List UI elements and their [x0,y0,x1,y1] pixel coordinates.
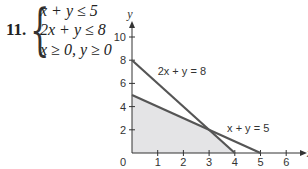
x-tick-label: 1 [155,156,161,168]
line-label-1: 2x + y = 8 [158,65,206,77]
x-axis-label: x [306,146,308,160]
x-tick-label: 5 [257,156,263,168]
feasible-region-graph: 1234562468100xy2x + y = 8x + y = 5 [0,0,308,169]
origin-label: 0 [120,156,126,168]
x-tick-label: 3 [206,156,212,168]
y-tick-label: 2 [120,124,126,136]
y-axis-label: y [126,7,133,21]
x-tick-label: 2 [180,156,186,168]
y-tick-label: 6 [120,77,126,89]
x-tick-label: 4 [232,156,238,168]
line-label-2: x + y = 5 [227,122,269,134]
x-axis-arrow-icon [300,150,307,156]
x-tick-label: 6 [283,156,289,168]
feasible-region [132,95,235,153]
y-tick-label: 4 [120,101,126,113]
y-tick-label: 8 [120,54,126,66]
y-axis-arrow-icon [129,21,135,28]
y-tick-label: 10 [114,31,126,43]
